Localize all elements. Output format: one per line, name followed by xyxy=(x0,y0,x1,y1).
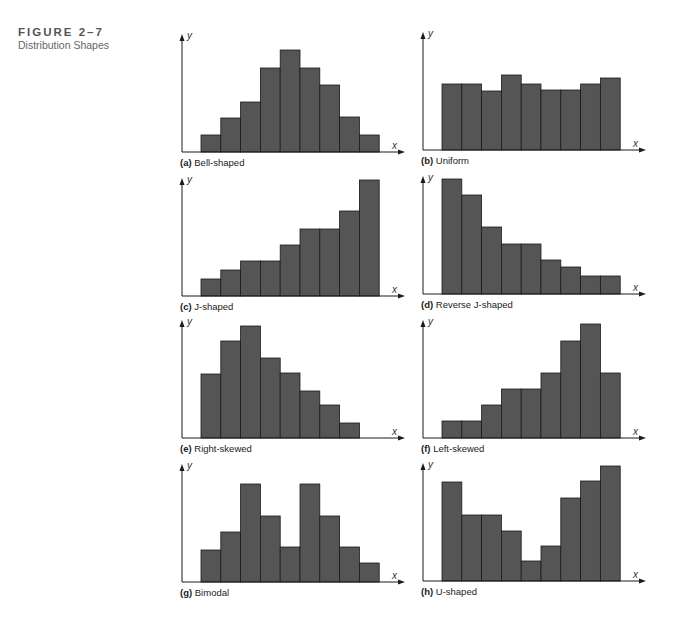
chart-bimodal: yx(g) Bimodal xyxy=(180,460,420,610)
caption-letter: (a) xyxy=(180,157,192,168)
chart-right-skewed: yx(e) Right-skewed xyxy=(180,316,420,466)
x-axis-arrow-icon xyxy=(398,294,405,299)
y-axis-label: y xyxy=(427,459,434,470)
histogram-bar xyxy=(521,244,541,294)
histogram-bar xyxy=(201,550,221,582)
chart-caption: (c) J-shaped xyxy=(180,301,233,312)
chart-caption: (f) Left-skewed xyxy=(421,443,484,454)
y-axis-arrow-icon xyxy=(180,464,185,471)
caption-title: Bimodal xyxy=(192,587,229,598)
caption-title: U-shaped xyxy=(433,586,477,597)
x-axis-label: x xyxy=(391,570,398,581)
histogram-bar xyxy=(359,135,379,152)
histogram-bar xyxy=(241,102,261,152)
histogram-bar xyxy=(280,50,300,152)
histogram-bar xyxy=(501,75,521,150)
caption-letter: (c) xyxy=(180,301,192,312)
figure-number: FIGURE 2–7 xyxy=(18,26,109,38)
chart-j-shaped: yx(c) J-shaped xyxy=(180,174,420,324)
y-axis-label: y xyxy=(427,172,434,183)
y-axis-label: y xyxy=(186,174,193,185)
histogram-bar xyxy=(221,341,241,438)
y-axis-arrow-icon xyxy=(421,32,426,39)
histogram-bar xyxy=(201,374,221,438)
caption-letter: (d) xyxy=(421,299,433,310)
y-axis-arrow-icon xyxy=(180,34,185,41)
histogram-bar xyxy=(581,276,601,294)
chart-caption: (e) Right-skewed xyxy=(180,443,252,454)
histogram-bar xyxy=(442,179,462,294)
histogram-bar xyxy=(482,91,502,150)
histogram-bar xyxy=(340,423,360,438)
histogram-bar xyxy=(482,227,502,294)
histogram-bar xyxy=(600,78,620,150)
histogram-bar xyxy=(521,389,541,438)
histogram-bar xyxy=(541,90,561,150)
histogram-bar xyxy=(541,260,561,294)
histogram-bar xyxy=(241,261,261,296)
histogram-bar xyxy=(501,244,521,294)
caption-title: Right-skewed xyxy=(192,443,252,454)
chart-left-skewed: yx(f) Left-skewed xyxy=(421,316,661,466)
histogram-bar xyxy=(241,326,261,438)
histogram-bar xyxy=(462,421,482,438)
histogram-bar xyxy=(241,484,261,582)
y-axis-label: y xyxy=(186,30,193,41)
x-axis-arrow-icon xyxy=(398,150,405,155)
histogram-bar xyxy=(300,68,320,152)
histogram-bar xyxy=(359,180,379,296)
histogram-bar xyxy=(280,547,300,582)
x-axis-arrow-icon xyxy=(639,436,646,441)
histogram-bar xyxy=(201,279,221,296)
y-axis-label: y xyxy=(427,28,434,39)
x-axis-label: x xyxy=(632,138,639,149)
caption-title: J-shaped xyxy=(192,301,234,312)
histogram-bar xyxy=(561,341,581,438)
chart-caption: (a) Bell-shaped xyxy=(180,157,244,168)
histogram-bar xyxy=(221,532,241,582)
histogram-bar xyxy=(600,466,620,581)
x-axis-arrow-icon xyxy=(398,580,405,585)
y-axis-label: y xyxy=(186,460,193,471)
histogram-bar xyxy=(300,391,320,438)
histogram-bar xyxy=(541,546,561,581)
x-axis-label: x xyxy=(391,284,398,295)
histogram-bar xyxy=(581,481,601,581)
y-axis-arrow-icon xyxy=(421,463,426,470)
histogram-bar xyxy=(600,276,620,294)
histogram-bar xyxy=(340,547,360,582)
histogram-bar xyxy=(501,389,521,438)
histogram-bar xyxy=(462,515,482,581)
histogram-bar xyxy=(561,498,581,581)
chart-caption: (b) Uniform xyxy=(421,155,469,166)
histogram-bar xyxy=(221,270,241,296)
caption-title: Uniform xyxy=(433,155,469,166)
histogram-bar xyxy=(561,90,581,150)
histogram-bar xyxy=(340,211,360,296)
histogram-bar xyxy=(482,405,502,438)
x-axis-arrow-icon xyxy=(639,292,646,297)
chart-caption: (g) Bimodal xyxy=(180,587,229,598)
y-axis-arrow-icon xyxy=(421,320,426,327)
x-axis-arrow-icon xyxy=(639,148,646,153)
histogram-bar xyxy=(462,84,482,150)
histogram-bar xyxy=(340,117,360,152)
histogram-bar xyxy=(462,195,482,294)
caption-title: Left-skewed xyxy=(431,443,485,454)
caption-letter: (g) xyxy=(180,587,192,598)
histogram-bar xyxy=(260,68,280,152)
chart-caption: (d) Reverse J-shaped xyxy=(421,299,513,310)
x-axis-label: x xyxy=(632,282,639,293)
figure-label: FIGURE 2–7 Distribution Shapes xyxy=(18,26,109,51)
caption-title: Bell-shaped xyxy=(192,157,245,168)
caption-letter: (h) xyxy=(421,586,433,597)
histogram-bar xyxy=(501,531,521,581)
x-axis-arrow-icon xyxy=(398,436,405,441)
chart-bell-shaped: yx(a) Bell-shaped xyxy=(180,30,420,180)
histogram-bar xyxy=(300,229,320,296)
x-axis-label: x xyxy=(391,426,398,437)
chart-u-shaped: yx(h) U-shaped xyxy=(421,459,661,609)
x-axis-arrow-icon xyxy=(639,579,646,584)
histogram-bar xyxy=(320,229,340,296)
figure-title: Distribution Shapes xyxy=(18,39,109,51)
